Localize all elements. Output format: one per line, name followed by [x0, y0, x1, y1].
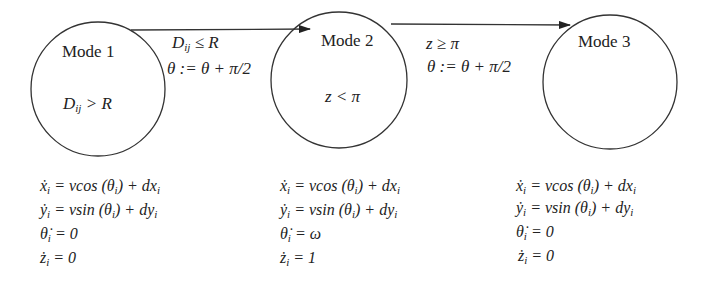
mode2-eq-y: ẏi = vsin (θi) + dyi [280, 202, 397, 220]
transition-2-reset: θ := θ + π/2 [427, 58, 511, 75]
mode3-eq-y: ẏi = vsin (θi) + dyi [516, 200, 633, 218]
mode3-label: Mode 3 [578, 33, 630, 50]
mode1-eq-y: ẏi = vsin (θi) + dyi [40, 202, 157, 220]
mode1-invariant: Dij > R [63, 95, 112, 114]
mode2-eq-z: żi = 1 [280, 250, 316, 268]
transition-arrow-2-3 [391, 24, 570, 25]
mode2-eq-x: ẋi = vcos (θi) + dxi [280, 178, 400, 196]
mode2-invariant: z < π [325, 88, 360, 105]
mode3-eq-x: ẋi = vcos (θi) + dxi [516, 178, 636, 196]
transition-1-guard: Dij ≤ R [172, 34, 219, 53]
transition-arrow-1-2 [131, 29, 310, 30]
mode1-eq-z: żi = 0 [40, 250, 76, 268]
mode1-eq-x: ẋi = vcos (θi) + dxi [40, 178, 160, 196]
transition-1-reset: θ := θ + π/2 [167, 60, 251, 77]
mode3-eq-theta: θ̇i = 0 [516, 224, 554, 242]
mode1-label: Mode 1 [62, 43, 114, 60]
mode2-eq-theta: θ̇i = ω [280, 226, 321, 244]
mode1-eq-theta: θ̇i = 0 [40, 226, 78, 244]
mode3-eq-z: żi = 0 [518, 248, 554, 266]
mode2-label: Mode 2 [321, 32, 373, 49]
transition-2-guard: z ≥ π [426, 35, 459, 52]
